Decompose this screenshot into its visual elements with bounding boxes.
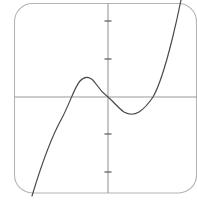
cubic-curve xyxy=(32,0,181,196)
cubic-function-plot xyxy=(0,0,197,213)
plot-canvas xyxy=(0,0,197,213)
